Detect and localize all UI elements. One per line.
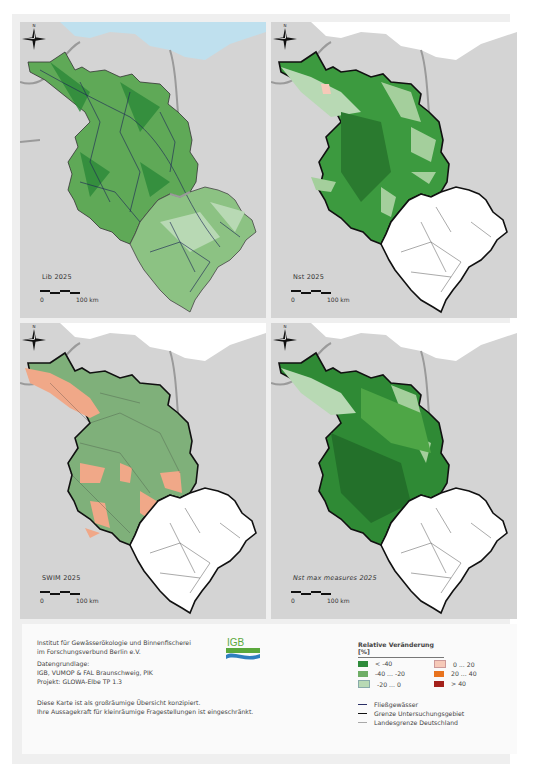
map-panel-swim-2025: N SWIM 2025 0 100 km xyxy=(20,323,266,619)
swatch xyxy=(434,681,444,687)
swatch xyxy=(358,671,368,677)
swatch xyxy=(358,680,370,688)
river-line-icon xyxy=(358,704,367,705)
map-panel-nst-max-measures-2025: N Nst max measures 2025 0 100 km xyxy=(271,323,517,619)
panel-label: Nst max measures 2025 xyxy=(293,574,377,582)
scale-bar: 0 100 km xyxy=(40,591,85,607)
scale-bar: 0 100 km xyxy=(291,591,336,607)
scale-bar: 0 100 km xyxy=(291,290,336,306)
project-label: Projekt: GLOWA-Elbe TP 1.3 xyxy=(37,677,122,686)
svg-text:N: N xyxy=(33,23,36,28)
north-arrow-icon: N xyxy=(20,323,48,355)
panel-label: SWIM 2025 xyxy=(42,574,81,582)
svg-text:N: N xyxy=(284,23,287,28)
data-basis-heading: Datengrundlage: xyxy=(37,659,89,668)
legend-line-study-boundary: Grenze Untersuchungsgebiet xyxy=(358,710,464,717)
swatch xyxy=(434,660,446,668)
svg-text:N: N xyxy=(33,324,36,329)
map-panel-lib-2025: N Lib 2025 0 100 km xyxy=(20,22,266,318)
institute-name-line2: im Forschungsverbund Berlin e.V. xyxy=(37,647,141,656)
svg-text:N: N xyxy=(284,324,287,329)
legend-class-minus20-0: -20 ... 0 xyxy=(358,680,401,688)
map-footer: Institut für Gewässerökologie und Binnen… xyxy=(22,624,517,754)
legend-line-rivers: Fließgewässer xyxy=(358,701,418,708)
state-border-line-icon xyxy=(358,722,367,723)
legend-line-state-border: Landesgrenze Deutschland xyxy=(358,719,458,726)
institute-name-line1: Institut für Gewässerökologie und Binnen… xyxy=(37,638,191,647)
north-arrow-icon: N xyxy=(271,323,299,355)
data-sources: IGB, VUMOP & FAL Braunschweig, PIK xyxy=(37,668,153,677)
boundary-line-icon xyxy=(358,713,367,714)
igb-logo: IGB xyxy=(225,636,263,662)
panel-label: Lib 2025 xyxy=(42,273,72,281)
disclaimer-line2: Ihre Aussagekraft für kleinräumige Frage… xyxy=(37,707,253,716)
panel-label: Nst 2025 xyxy=(293,273,324,281)
north-arrow-icon: N xyxy=(271,22,299,54)
legend-class-20-40: 20 ... 40 xyxy=(434,670,477,677)
disclaimer-line1: Diese Karte ist als großräumige Übersich… xyxy=(37,698,200,707)
map-panel-nst-2025: N Nst 2025 0 100 km xyxy=(271,22,517,318)
legend-class-minus40-minus20: -40 ... -20 xyxy=(358,670,405,677)
legend-title: Relative Veränderung [%] xyxy=(358,641,444,658)
swatch xyxy=(434,671,444,677)
north-arrow-icon: N xyxy=(20,22,48,54)
legend-class-lt-minus40: < -40 xyxy=(358,660,392,667)
legend-class-0-20: 0 ... 20 xyxy=(434,660,475,668)
swatch xyxy=(358,661,368,667)
svg-text:IGB: IGB xyxy=(227,637,245,648)
scale-bar: 0 100 km xyxy=(40,290,85,306)
legend-class-gt40: > 40 xyxy=(434,680,466,687)
